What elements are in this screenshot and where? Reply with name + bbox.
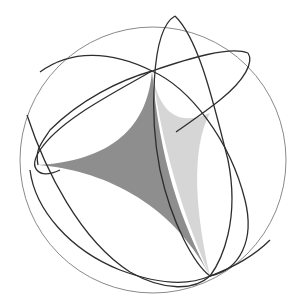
sphere-diagram <box>0 0 300 303</box>
